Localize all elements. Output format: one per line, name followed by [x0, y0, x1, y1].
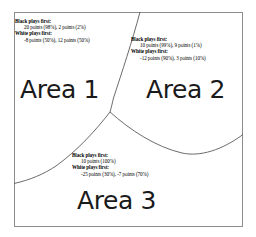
- area3-label: Area 3: [77, 186, 156, 215]
- area1-white-values: -8 points (50%), 12 points (50%): [15, 37, 90, 43]
- area1-label: Area 1: [20, 75, 99, 104]
- area2-white-values: -12 points (90%), 3 points (10%): [131, 55, 206, 61]
- area3-annotation-block: Black plays first: 10 points (100%) Whit…: [72, 152, 148, 177]
- area2-label: Area 2: [146, 75, 225, 104]
- area2-annotation-block: Black plays first: 10 points (99%), 9 po…: [131, 36, 206, 61]
- region-diagram: Black plays first: 20 points (98%), 2 po…: [0, 0, 256, 237]
- area1-annotation-block: Black plays first: 20 points (98%), 2 po…: [15, 18, 90, 43]
- area3-white-values: -25 points (30%), -7 points (70%): [72, 171, 148, 177]
